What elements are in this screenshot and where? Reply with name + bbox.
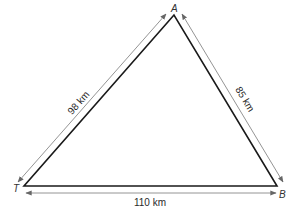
triangle-diagram: A T B 98 km 85 km 110 km [0,0,296,218]
dimension-arrow-ta [18,14,166,182]
side-label-ab: 85 km [233,85,256,114]
dimension-arrow-ab [182,14,283,182]
side-label-tb: 110 km [134,197,166,208]
vertex-label-a: A [170,3,178,14]
vertex-label-b: B [279,189,286,200]
vertex-label-t: T [13,183,20,194]
triangle-shape [24,15,277,186]
